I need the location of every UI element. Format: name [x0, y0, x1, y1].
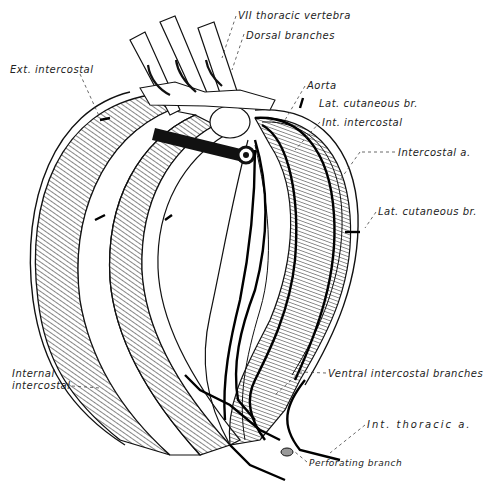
right-ribs [205, 110, 358, 445]
label-internal-intercostal-line2: intercostal [12, 380, 70, 391]
perforating-point [281, 448, 293, 456]
label-perforating-branch: Perforating branch [309, 458, 402, 469]
label-lat-cutaneous-br-upper: Lat. cutaneous br. [319, 98, 418, 109]
label-lat-cutaneous-br-lower: Lat. cutaneous br. [378, 206, 477, 217]
label-intercostal-a: Intercostal a. [398, 147, 471, 158]
label-vii-thoracic-vertebra: VII thoracic vertebra [238, 10, 351, 21]
label-int-intercostal: Int. intercostal [322, 117, 403, 128]
label-ventral-intercostal-branches: Ventral intercostal branches [328, 368, 483, 379]
label-aorta: Aorta [307, 80, 337, 91]
label-internal-intercostal-line1: Internal [12, 368, 55, 379]
label-int-thoracic-a: Int. thoracic a. [367, 419, 471, 430]
label-ext-intercostal: Ext. intercostal [10, 64, 93, 75]
label-dorsal-branches: Dorsal branches [246, 30, 335, 41]
